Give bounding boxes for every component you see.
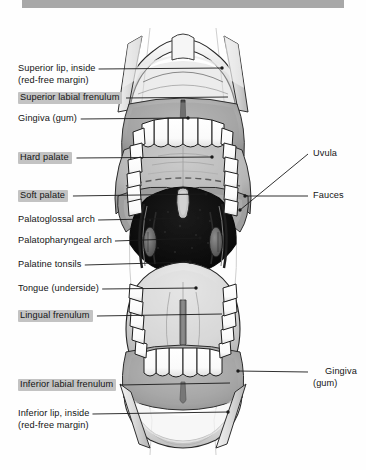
label-hard-palate: Hard palate <box>18 152 72 164</box>
label-palatopharyngeal-arch: Palatopharyngeal arch <box>18 235 112 247</box>
label-uvula: Uvula <box>313 148 337 160</box>
label-superior-labial-frenulum: Superior labial frenulum <box>18 92 122 104</box>
label-text: Fauces <box>313 190 344 200</box>
label-text: Gingiva (gum) <box>18 113 77 123</box>
leader-dot-superior-lip-inside <box>220 66 223 69</box>
label-text: Palatopharyngeal arch <box>18 235 112 245</box>
label-text: Soft palate <box>20 190 65 200</box>
leader-dot-palatoglossal-arch <box>196 216 199 219</box>
leader-dot-inferior-lip-inside <box>226 410 229 413</box>
label-text: Superior lip, inside <box>18 63 96 73</box>
label-palatine-tonsils: Palatine tonsils <box>18 259 81 271</box>
label-text: Hard palate <box>20 152 69 162</box>
label-fauces: Fauces <box>313 190 344 202</box>
leader-dot-palatine-tonsils <box>188 260 191 263</box>
label-text-second-line: (red-free margin) <box>18 75 89 85</box>
leader-dot-soft-palate <box>204 192 207 195</box>
label-text: Palatine tonsils <box>18 259 81 269</box>
label-tongue-underside: Tongue (underside) <box>18 283 99 295</box>
leader-dot-hard-palate <box>210 155 213 158</box>
label-text: Palatoglossal arch <box>18 214 95 224</box>
label-text: Gingiva <box>325 366 357 376</box>
leader-gingiva-gum-lower <box>238 371 308 372</box>
label-text: Lingual frenulum <box>20 310 90 320</box>
leader-dot-gingiva-gum-upper <box>186 116 189 119</box>
label-superior-lip-inside: Superior lip, inside(red-free margin) <box>18 63 96 86</box>
label-lingual-frenulum: Lingual frenulum <box>18 310 93 322</box>
label-text-second-line: (red-free margin) <box>18 420 89 430</box>
label-text: Uvula <box>313 148 337 158</box>
leader-dot-gingiva-gum-lower <box>236 369 239 372</box>
label-text: Inferior labial frenulum <box>20 379 113 389</box>
leader-dot-tongue-underside <box>194 286 197 289</box>
label-text: Inferior lip, inside <box>18 408 89 418</box>
leader-dot-palatopharyngeal-arch <box>198 236 201 239</box>
label-text-second-line: (gum) <box>313 378 338 388</box>
oral-cavity-figure-page: Superior lip, inside(red-free margin)Sup… <box>0 0 366 470</box>
uvula <box>177 188 190 219</box>
label-inferior-labial-frenulum: Inferior labial frenulum <box>18 379 116 391</box>
label-gingiva-gum-lower: Gingiva(gum) <box>313 366 357 389</box>
leader-dot-fauces <box>243 194 246 197</box>
label-text: Tongue (underside) <box>18 283 99 293</box>
label-palatoglossal-arch: Palatoglossal arch <box>18 214 95 226</box>
leader-dot-uvula <box>238 208 241 211</box>
label-soft-palate: Soft palate <box>18 190 68 202</box>
label-text: Superior labial frenulum <box>20 92 119 102</box>
label-inferior-lip-inside: Inferior lip, inside(red-free margin) <box>18 408 89 431</box>
label-gingiva-gum-upper: Gingiva (gum) <box>18 113 77 125</box>
